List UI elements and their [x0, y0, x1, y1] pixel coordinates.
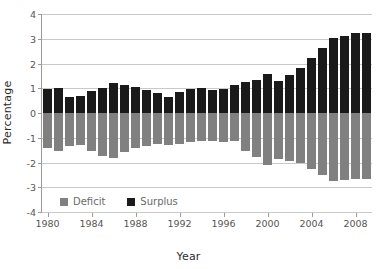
bar-slot — [208, 14, 216, 212]
bar-slot — [329, 14, 337, 212]
bar-slot — [186, 14, 194, 212]
bar-deficit — [340, 113, 348, 180]
legend-swatch-icon — [60, 198, 68, 206]
bar-slot — [175, 14, 183, 212]
bar-surplus — [285, 75, 293, 113]
x-tick-mark — [312, 213, 313, 217]
bar-deficit — [285, 113, 293, 161]
bar-slot — [120, 14, 128, 212]
bar-slot — [241, 14, 249, 212]
bar-slot — [153, 14, 161, 212]
bar-surplus — [274, 81, 282, 113]
bar-deficit — [186, 113, 194, 142]
y-tick-label: 0 — [0, 108, 36, 119]
x-tick-label: 1980 — [28, 218, 68, 229]
bar-surplus — [252, 80, 260, 113]
bar-deficit — [307, 113, 315, 169]
bar-slot — [296, 14, 304, 212]
bar-deficit — [109, 113, 117, 158]
bar-slot — [65, 14, 73, 212]
bar-surplus — [153, 93, 161, 113]
x-tick-label: 1984 — [72, 218, 112, 229]
bar-deficit — [296, 113, 304, 163]
bar-surplus — [54, 88, 62, 113]
bar-deficit — [230, 113, 238, 141]
bar-surplus — [318, 48, 326, 113]
y-tick-label: -4 — [0, 207, 36, 218]
bar-surplus — [362, 33, 370, 113]
bar-surplus — [120, 85, 128, 113]
y-tick-label: 2 — [0, 58, 36, 69]
bar-deficit — [329, 113, 337, 181]
bar-surplus — [329, 38, 337, 113]
x-tick-label: 2004 — [292, 218, 332, 229]
bar-slot — [131, 14, 139, 212]
bar-surplus — [175, 92, 183, 113]
bar-deficit — [318, 113, 326, 175]
bar-deficit — [175, 113, 183, 144]
x-tick-mark — [356, 213, 357, 217]
x-tick-mark — [136, 213, 137, 217]
bar-surplus — [186, 89, 194, 113]
bar-surplus — [241, 82, 249, 113]
bar-deficit — [164, 113, 172, 145]
x-tick-mark — [180, 213, 181, 217]
bar-deficit — [43, 113, 51, 148]
bar-surplus — [76, 96, 84, 113]
bar-slot — [285, 14, 293, 212]
x-tick-mark — [224, 213, 225, 217]
legend: DeficitSurplus — [60, 196, 178, 207]
bar-surplus — [340, 36, 348, 113]
bar-deficit — [274, 113, 282, 159]
bar-deficit — [197, 113, 205, 141]
bar-deficit — [76, 113, 84, 145]
bar-slot — [87, 14, 95, 212]
y-tick-label: 3 — [0, 33, 36, 44]
bar-slot — [219, 14, 227, 212]
bar-surplus — [197, 88, 205, 113]
bar-deficit — [98, 113, 106, 156]
bar-deficit — [142, 113, 150, 146]
bar-surplus — [296, 68, 304, 113]
bar-slot — [142, 14, 150, 212]
bar-slot — [109, 14, 117, 212]
bar-surplus — [263, 74, 271, 113]
x-tick-label: 2000 — [248, 218, 288, 229]
x-axis-title: Year — [0, 250, 377, 263]
bar-surplus — [109, 83, 117, 113]
bar-surplus — [351, 33, 359, 113]
bar-slot — [362, 14, 370, 212]
bar-surplus — [208, 90, 216, 113]
bar-slot — [318, 14, 326, 212]
bar-surplus — [307, 58, 315, 113]
legend-entry-surplus: Surplus — [127, 196, 177, 207]
bar-slot — [164, 14, 172, 212]
x-tick-mark — [92, 213, 93, 217]
bar-surplus — [164, 97, 172, 113]
bar-slot — [98, 14, 106, 212]
bar-deficit — [241, 113, 249, 151]
bar-surplus — [43, 89, 51, 113]
x-tick-label: 1988 — [116, 218, 156, 229]
bar-slot — [351, 14, 359, 212]
legend-swatch-icon — [127, 198, 135, 206]
bar-surplus — [98, 88, 106, 113]
bar-slot — [76, 14, 84, 212]
bar-slot — [43, 14, 51, 212]
bar-deficit — [351, 113, 359, 179]
bar-deficit — [54, 113, 62, 151]
bar-deficit — [87, 113, 95, 151]
bar-surplus — [230, 85, 238, 113]
bar-deficit — [153, 113, 161, 144]
gridline--4 — [42, 212, 372, 213]
bar-surplus — [131, 87, 139, 113]
y-tick-label: -2 — [0, 157, 36, 168]
bar-surplus — [65, 97, 73, 113]
bar-deficit — [362, 113, 370, 179]
bar-surplus — [87, 91, 95, 113]
x-tick-label: 1996 — [204, 218, 244, 229]
y-tick-label: 1 — [0, 83, 36, 94]
bar-slot — [263, 14, 271, 212]
bar-deficit — [219, 113, 227, 142]
bar-slot — [197, 14, 205, 212]
